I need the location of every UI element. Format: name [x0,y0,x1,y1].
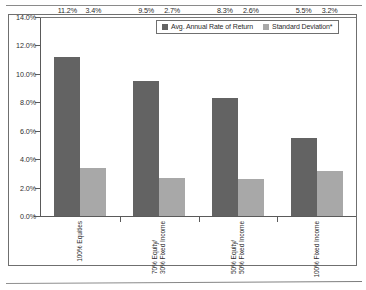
bar-column[interactable]: 3.2% [317,17,343,216]
bar[interactable]: 2.6% [238,179,264,216]
y-axis-tick-mark [35,102,40,103]
bar-column[interactable]: 9.5% [133,17,159,216]
bar-column[interactable]: 3.4% [80,17,106,216]
bar-value-label: 2.6% [243,6,259,15]
bar-value-label: 9.5% [138,6,154,15]
bar-value-label: 3.2% [322,6,338,15]
bar-group: 5.5%3.2% [277,17,356,216]
page-canvas: 14.0%12.0%10.0%8.0%6.0%4.0%2.0%0.0% 11.2… [0,0,366,290]
x-axis-label-cell: 100% Equities [41,221,120,283]
bar-group: 9.5%2.7% [120,17,199,216]
y-axis-tick-mark [35,17,40,18]
x-axis-category-label: 100% Fixed Income [313,221,321,278]
bar[interactable]: 9.5% [133,81,159,216]
y-axis-tick-mark [35,216,40,217]
bar[interactable]: 5.5% [291,138,317,216]
x-axis-label-cell: 100% Fixed Income [277,221,356,283]
x-axis-category-label: 100% Equities [77,221,85,262]
bar-value-label: 3.4% [85,6,101,15]
y-axis-tick-mark [35,74,40,75]
bar-value-label: 5.5% [296,6,312,15]
bar[interactable]: 2.7% [159,178,185,216]
x-axis-category-label: 50% Equity/50% Fixed Income [230,221,245,274]
bar-column[interactable]: 2.6% [238,17,264,216]
x-axis-label-cell: 70% Equity/30% Fixed Income [120,221,199,283]
y-axis-tick-mark [35,45,40,46]
legend-item-avg-annual-rate-of-return: Avg. Annual Rate of Return [162,23,253,30]
bar-value-label: 8.3% [217,6,233,15]
y-axis-tick-mark [35,131,40,132]
legend-swatch-icon-dark [162,24,168,30]
chart-legend: Avg. Annual Rate of Return Standard Devi… [156,20,339,34]
bar[interactable]: 3.4% [80,168,106,216]
x-axis-line [34,216,356,217]
bar-value-label: 2.7% [164,6,180,15]
x-axis-category-label: 70% Equity/30% Fixed Income [152,221,167,274]
bar-column[interactable]: 11.2% [54,17,80,216]
bar-group: 8.3%2.6% [199,17,278,216]
bar-value-label: 11.2% [58,6,77,15]
bar[interactable]: 8.3% [212,98,238,216]
x-axis-label-cell: 50% Equity/50% Fixed Income [199,221,278,283]
bar-column[interactable]: 5.5% [291,17,317,216]
x-axis-label-group: 100% Equities70% Equity/30% Fixed Income… [41,221,356,283]
legend-item-standard-deviation: Standard Deviation* [263,23,332,30]
bar-group: 11.2%3.4% [41,17,120,216]
bar[interactable]: 11.2% [54,57,80,216]
legend-swatch-icon-light [263,24,269,30]
legend-label: Standard Deviation* [272,23,332,30]
bar-group-container: 11.2%3.4%9.5%2.7%8.3%2.6%5.5%3.2% [41,17,356,216]
bar-column[interactable]: 2.7% [159,17,185,216]
bar-column[interactable]: 8.3% [212,17,238,216]
legend-label: Avg. Annual Rate of Return [171,23,253,30]
y-axis-tick-mark [35,188,40,189]
bar[interactable]: 3.2% [317,171,343,216]
y-axis-tick-mark [35,159,40,160]
